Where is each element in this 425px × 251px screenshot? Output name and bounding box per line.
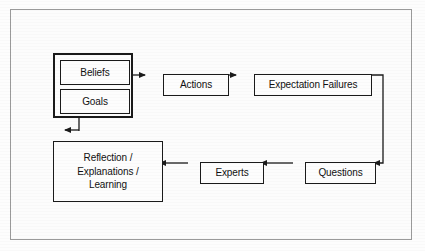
node-beliefs[interactable]: Beliefs [60, 60, 130, 85]
connector-layer [0, 0, 425, 251]
node-reflection-explanations-learning[interactable]: Reflection / Explanations / Learning [53, 141, 163, 202]
node-mental-state-container[interactable]: Beliefs Goals [53, 53, 133, 118]
node-experts[interactable]: Experts [200, 162, 264, 184]
node-goals[interactable]: Goals [60, 89, 130, 114]
node-questions[interactable]: Questions [305, 162, 376, 184]
diagram-screenshot: Beliefs Goals Actions Expectation Failur… [0, 0, 425, 251]
page-frame: Beliefs Goals Actions Expectation Failur… [10, 9, 412, 240]
node-expectation-failures[interactable]: Expectation Failures [254, 74, 372, 96]
node-actions[interactable]: Actions [163, 74, 229, 96]
